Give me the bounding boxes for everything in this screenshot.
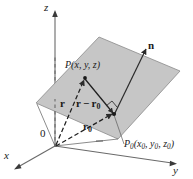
vector-label-r-base: r (76, 97, 81, 109)
point-label-p: P(x, y, z) (65, 60, 100, 70)
origin-label: 0 (40, 128, 46, 139)
point-p0-dot (112, 112, 116, 116)
vector-label-n: n (148, 40, 154, 51)
vector-label-r: r (60, 98, 65, 109)
axis-x (14, 146, 55, 170)
vector-label-r0-sub: 0 (88, 125, 92, 134)
point-label-p-coords: (x, y, z) (71, 59, 100, 70)
vector-label-r-minus-r0: r − r0 (76, 98, 100, 111)
axis-label-x: x (4, 150, 9, 161)
vector-label-r0-subscript: 0 (96, 102, 100, 111)
diagram-canvas (0, 0, 193, 179)
axis-label-z: z (44, 2, 48, 13)
plane-vector-diagram: z x y 0 P(x, y, z) P0(x0, y0, z0) r r − … (0, 0, 193, 179)
vector-label-minus-sign: − (83, 97, 89, 109)
point-p-dot (83, 76, 87, 80)
plane-surface (36, 37, 180, 139)
point-label-p0-coords: (x0, y0, z0) (134, 138, 174, 149)
axis-label-y: y (173, 165, 178, 176)
vector-label-r0: r0 (83, 121, 92, 134)
point-label-p0: P0(x0, y0, z0) (124, 139, 174, 151)
